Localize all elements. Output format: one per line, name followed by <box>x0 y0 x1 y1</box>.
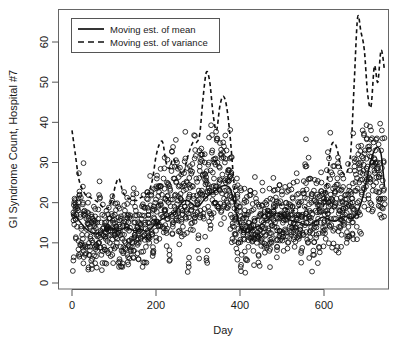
y-tick-label: 60 <box>38 36 50 48</box>
gi-syndrome-scatter-chart: 0102030405060 0200400600 Day GI Syndrome… <box>0 0 398 348</box>
x-tick-label: 0 <box>69 299 75 311</box>
y-tick-label: 10 <box>38 237 50 249</box>
y-tick-label: 30 <box>38 156 50 168</box>
x-axis-title: Day <box>213 324 233 336</box>
y-axis-title: GI Syndrome Count, Hospital #7 <box>7 70 19 228</box>
y-tick-label: 0 <box>38 280 50 286</box>
y-tick-label: 20 <box>38 197 50 209</box>
legend-label-mean: Moving est. of mean <box>110 24 196 35</box>
x-tick-label: 400 <box>231 299 249 311</box>
y-tick-label: 50 <box>38 76 50 88</box>
legend-label-variance: Moving est. of variance <box>110 37 208 48</box>
x-tick-label: 200 <box>147 299 165 311</box>
x-tick-label: 600 <box>315 299 333 311</box>
legend: Moving est. of mean Moving est. of varia… <box>72 19 220 53</box>
y-tick-label: 40 <box>38 116 50 128</box>
